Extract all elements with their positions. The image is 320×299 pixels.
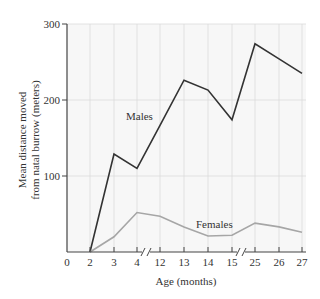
x-tick-label: 15 (227, 256, 239, 268)
y-tick-label: 100 (44, 170, 61, 182)
y-tick-label: 200 (44, 94, 61, 106)
x-tick-label: 12 (155, 256, 166, 268)
x-tick-label: 14 (203, 256, 215, 268)
y-tick-label: 300 (44, 18, 61, 30)
x-tick-label: 26 (274, 256, 286, 268)
x-tick-label: 25 (250, 256, 262, 268)
x-axis-label: Age (months) (156, 275, 217, 288)
y-axis-label: Mean distance movedfrom natal burrow (me… (16, 80, 42, 200)
females-annotation: Females (196, 218, 233, 230)
x-tick-label: 13 (179, 256, 191, 268)
plot-area (67, 24, 306, 252)
line-chart: 100200300023412131415252627Age (months)M… (0, 0, 320, 299)
x-tick-label: 4 (134, 256, 140, 268)
x-tick-label: 2 (87, 256, 93, 268)
males-annotation: Males (126, 110, 153, 122)
x-tick-label: 0 (64, 256, 70, 268)
x-tick-label: 27 (297, 256, 309, 268)
x-tick-label: 3 (111, 256, 117, 268)
